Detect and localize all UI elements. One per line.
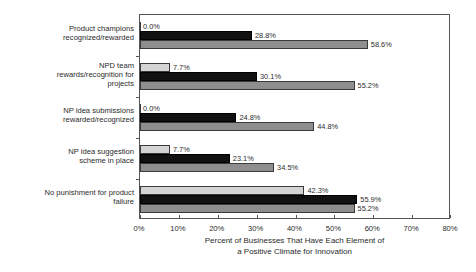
y-axis-tick-mark <box>136 56 140 57</box>
bar-value-label: 7.7% <box>173 145 190 154</box>
bar-average <box>140 31 252 40</box>
bar-value-label: 28.8% <box>255 31 276 40</box>
x-axis-tick-mark <box>412 215 413 218</box>
bar-worst <box>140 22 141 31</box>
plot-area: 0.0%28.8%58.6%7.7%30.1%55.2%0.0%24.8%44.… <box>139 14 450 219</box>
x-axis-tick-mark <box>373 215 374 218</box>
bar-value-label: 58.6% <box>371 40 392 49</box>
bar-average <box>140 113 236 122</box>
bar-value-label: 42.3% <box>307 186 328 195</box>
x-axis-tick-mark <box>140 215 141 218</box>
x-axis-tick-mark <box>218 215 219 218</box>
x-axis-tick-mark <box>179 215 180 218</box>
bar-value-label: 7.7% <box>173 63 190 72</box>
category-label-line: projects <box>16 79 134 88</box>
bar-value-label: 55.2% <box>358 81 379 90</box>
x-axis-title-line-1: Percent of Businesses That Have Each Ele… <box>139 236 450 247</box>
category-label: NPD teamrewards/recognition forprojects <box>16 61 134 89</box>
category-label-line: No punishment for product <box>16 188 134 197</box>
x-axis-tick-mark <box>334 215 335 218</box>
x-axis-tick-mark <box>257 215 258 218</box>
category-label-line: NPD team <box>16 61 134 70</box>
bar-value-label: 0.0% <box>143 22 160 31</box>
x-axis-tick-label: 40% <box>287 224 302 233</box>
category-label-line: rewarded/recognized <box>16 115 134 124</box>
bar-value-label: 55.2% <box>358 204 379 213</box>
x-axis-tick-mark <box>450 215 451 218</box>
bar-group: 7.7%23.1%34.5% <box>140 145 449 172</box>
bar-value-label: 30.1% <box>260 72 281 81</box>
bar-best <box>140 204 355 213</box>
bar-value-label: 44.8% <box>317 122 338 131</box>
bar-group: 0.0%28.8%58.6% <box>140 22 449 49</box>
bar-value-label: 23.1% <box>233 154 254 163</box>
x-axis-tick-label: 80% <box>442 224 457 233</box>
category-label: NP idea suggestionscheme in place <box>16 147 134 166</box>
x-axis-tick-label: 10% <box>170 224 185 233</box>
y-axis-tick-mark <box>136 97 140 98</box>
category-label: No punishment for productfailure <box>16 188 134 207</box>
bar-worst <box>140 145 170 154</box>
bar-average <box>140 154 230 163</box>
x-axis-title: Percent of Businesses That Have Each Ele… <box>139 236 450 257</box>
bar-group: 0.0%24.8%44.8% <box>140 104 449 131</box>
bar-value-label: 24.8% <box>239 113 260 122</box>
bar-group: 42.3%55.9%55.2% <box>140 186 449 213</box>
category-label: NP idea submissionsrewarded/recognized <box>16 106 134 125</box>
y-axis-tick-mark <box>136 179 140 180</box>
x-axis-tick-mark <box>296 215 297 218</box>
bar-worst <box>140 186 304 195</box>
category-label-line: rewards/recognition for <box>16 70 134 79</box>
category-label-line: NP idea suggestion <box>16 147 134 156</box>
category-label-line: scheme in place <box>16 156 134 165</box>
bar-average <box>140 72 257 81</box>
x-axis-title-line-2: a Positive Climate for Innovation <box>139 247 450 258</box>
bar-worst <box>140 104 141 113</box>
bar-best <box>140 40 368 49</box>
bar-average <box>140 195 357 204</box>
bar-value-label: 34.5% <box>277 163 298 172</box>
category-label: Product championsrecognized/rewarded <box>16 24 134 43</box>
x-axis-tick-label: 0% <box>134 224 145 233</box>
x-axis-tick-label: 30% <box>248 224 263 233</box>
bar-chart: Product championsrecognized/rewardedNPD … <box>0 0 476 272</box>
category-label-line: Product champions <box>16 24 134 33</box>
bar-value-label: 0.0% <box>143 104 160 113</box>
bar-best <box>140 163 274 172</box>
x-axis-tick-label: 60% <box>365 224 380 233</box>
x-axis-tick-label: 50% <box>326 224 341 233</box>
category-label-line: NP idea submissions <box>16 106 134 115</box>
bar-best <box>140 122 314 131</box>
bar-best <box>140 81 355 90</box>
category-label-line: recognized/rewarded <box>16 33 134 42</box>
x-axis-tick-label: 20% <box>209 224 224 233</box>
bar-worst <box>140 63 170 72</box>
y-axis-tick-mark <box>136 138 140 139</box>
bar-value-label: 55.9% <box>360 195 381 204</box>
bar-group: 7.7%30.1%55.2% <box>140 63 449 90</box>
category-label-line: failure <box>16 197 134 206</box>
x-axis-tick-label: 70% <box>404 224 419 233</box>
